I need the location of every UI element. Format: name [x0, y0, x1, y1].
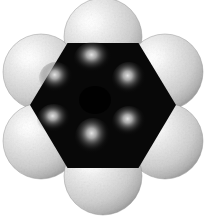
ring-center-shadow [79, 86, 111, 114]
carbon-atom-1 [74, 42, 112, 74]
carbon-atom-5 [37, 104, 71, 134]
carbon-atom-4 [75, 118, 111, 156]
carbon-atom-2 [112, 62, 146, 96]
molecular-model-image: Grayscale space-filling model of benzene… [0, 0, 206, 223]
carbon-atom-3 [112, 106, 146, 138]
benzene-model-canvas [0, 0, 206, 223]
carbon-atom-6 [39, 62, 73, 94]
